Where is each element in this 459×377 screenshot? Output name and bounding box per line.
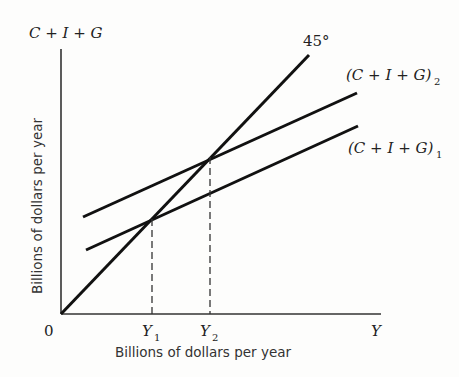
aggregate-expenditure-1-label: (C + I + G) 1 <box>348 139 442 160</box>
svg-text:Y: Y <box>200 322 212 340</box>
y-axis-title: C + I + G <box>29 24 103 42</box>
x-axis-label: Billions of dollars per year <box>115 344 291 360</box>
forty-five-degree-line <box>61 55 309 314</box>
x-axis-end-label: Y <box>371 322 383 340</box>
svg-text:Y: Y <box>142 322 154 340</box>
tick-y2: Y 2 <box>200 322 218 343</box>
aggregate-expenditure-2-line <box>83 93 357 217</box>
svg-text:2: 2 <box>212 332 218 343</box>
y-axis-label: Billions of dollars per year <box>29 118 45 294</box>
keynesian-cross-diagram: C + I + G Billions of dollars per year 0… <box>0 0 459 377</box>
forty-five-degree-label: 45° <box>303 32 330 50</box>
svg-text:(C + I + G): (C + I + G) <box>346 66 431 84</box>
svg-text:2: 2 <box>434 76 440 87</box>
svg-text:1: 1 <box>436 149 442 160</box>
svg-text:1: 1 <box>154 332 160 343</box>
origin-label: 0 <box>44 322 54 340</box>
tick-y1: Y 1 <box>142 322 160 343</box>
svg-text:(C + I + G): (C + I + G) <box>348 139 433 157</box>
aggregate-expenditure-2-label: (C + I + G) 2 <box>346 66 440 87</box>
